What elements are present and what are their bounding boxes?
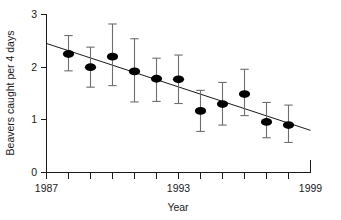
data-point-group [195, 90, 206, 131]
y-tick-label-1: 1 [31, 113, 37, 125]
data-point-marker [239, 90, 250, 98]
data-point-group [107, 24, 118, 86]
x-axis-title: Year [167, 201, 189, 213]
x-tick-label-1993: 1993 [167, 182, 191, 194]
data-point-group [217, 82, 228, 125]
data-point-group [173, 55, 184, 103]
chart-figure: 3 2 1 0 1987 1993 1999 Year B [0, 0, 341, 220]
data-point-marker [129, 67, 140, 75]
y-axis-title: Beavers caught per 4 days [4, 31, 16, 156]
data-point-group [261, 102, 272, 137]
x-ticks [47, 173, 289, 180]
data-point-marker [195, 107, 206, 115]
data-point-marker [107, 53, 118, 61]
y-tick-label-3: 3 [31, 8, 37, 20]
data-point-marker [63, 50, 74, 58]
x-tick-label-1999: 1999 [299, 182, 323, 194]
data-point-group [239, 69, 250, 115]
x-tick-labels: 1987 1993 1999 [35, 182, 323, 194]
data-point-marker [85, 63, 96, 71]
data-point-marker [217, 100, 228, 108]
data-point-group [151, 58, 162, 101]
data-series [63, 24, 294, 143]
y-tick-label-0: 0 [31, 166, 37, 178]
data-point-marker [151, 75, 162, 83]
y-tick-label-2: 2 [31, 61, 37, 73]
data-point-group [283, 105, 294, 142]
data-point-marker [283, 121, 294, 129]
scatter-plot: 3 2 1 0 1987 1993 1999 Year B [0, 0, 341, 220]
y-tick-labels: 3 2 1 0 [31, 8, 37, 178]
data-point-group [85, 47, 96, 87]
data-point-marker [261, 118, 272, 126]
data-point-group [63, 36, 74, 71]
x-tick-label-1987: 1987 [35, 182, 59, 194]
data-point-group [129, 39, 140, 102]
data-point-marker [173, 75, 184, 83]
y-ticks [41, 15, 47, 173]
